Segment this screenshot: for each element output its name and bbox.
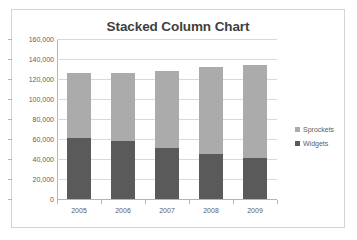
bar-segment-widgets[interactable] [155,148,179,199]
y-axis-tick-label: 160,000 [29,36,54,43]
legend-item-widgets[interactable]: Widgets [295,140,357,147]
x-axis-tick [277,200,278,204]
y-axis-tick [8,119,12,120]
plot-area [57,39,277,199]
y-axis-tick-label: 80,000 [33,116,54,123]
x-axis-tick-label: 2009 [247,207,263,214]
legend-label: Sprockets [303,126,334,133]
y-axis-tick [8,199,12,200]
bar-group[interactable] [199,39,223,199]
y-axis-tick-label: 120,000 [29,76,54,83]
chart-title: Stacked Column Chart [12,19,344,34]
bar-segment-sprockets[interactable] [67,73,91,138]
y-axis-tick-label: 40,000 [33,156,54,163]
y-axis-tick-label: 100,000 [29,96,54,103]
y-axis-tick [8,99,12,100]
y-axis-tick [8,59,12,60]
bar-segment-sprockets[interactable] [199,67,223,154]
x-axis-tick-label: 2007 [159,207,175,214]
y-axis-tick-label: 0 [50,196,54,203]
x-axis-tick [189,200,190,204]
bar-segment-widgets[interactable] [111,141,135,199]
x-axis-tick [145,200,146,204]
y-axis-tick-label: 60,000 [33,136,54,143]
bar-segment-widgets[interactable] [243,158,267,199]
x-axis-tick-label: 2008 [203,207,219,214]
y-axis-tick [8,139,12,140]
bar-segment-sprockets[interactable] [155,71,179,148]
bar-group[interactable] [67,39,91,199]
legend-item-sprockets[interactable]: Sprockets [295,126,357,133]
y-axis-labels: 160,000140,000120,000100,00080,00060,000… [12,39,54,199]
bar-segment-widgets[interactable] [199,154,223,199]
bar-segment-sprockets[interactable] [111,73,135,141]
y-axis-tick [8,179,12,180]
chart-legend: SprocketsWidgets [295,126,357,154]
legend-swatch-icon [295,127,300,132]
y-axis-tick [8,79,12,80]
y-axis-tick [8,159,12,160]
bar-group[interactable] [155,39,179,199]
x-axis-tick-label: 2006 [115,207,131,214]
x-axis-tick [57,200,58,204]
bar-segment-sprockets[interactable] [243,65,267,158]
bar-segment-widgets[interactable] [67,138,91,199]
y-axis-tick-label: 140,000 [29,56,54,63]
x-axis-tick [101,200,102,204]
x-axis-tick-label: 2005 [71,207,87,214]
legend-swatch-icon [295,141,300,146]
chart-frame: Stacked Column Chart 160,000140,000120,0… [11,9,345,228]
legend-label: Widgets [303,140,328,147]
bar-group[interactable] [243,39,267,199]
y-axis-tick-label: 20,000 [33,176,54,183]
x-axis: 20052006200720082009 [57,200,277,222]
x-axis-tick [233,200,234,204]
bar-group[interactable] [111,39,135,199]
y-axis-tick [8,39,12,40]
